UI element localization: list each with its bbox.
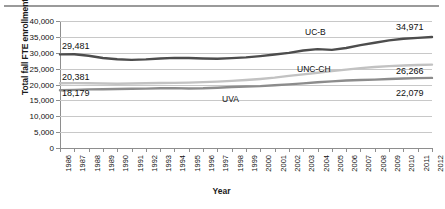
x-tick-mark: [289, 148, 290, 152]
y-axis-title: Total fall FTE enrollment: [20, 0, 30, 112]
x-tick-label: 1994: [178, 155, 187, 172]
x-tick-label: 2007: [364, 155, 373, 172]
x-tick-mark: [318, 148, 319, 152]
x-tick-mark: [375, 148, 376, 152]
x-tick-mark: [74, 148, 75, 152]
x-tick-mark: [60, 148, 61, 152]
series-label-unc: UNC-CH: [297, 64, 331, 74]
y-tick-label: 0: [50, 144, 54, 153]
x-tick-label: 1999: [250, 155, 259, 172]
x-tick-label: 1992: [150, 155, 159, 172]
x-tick-label: 1995: [193, 155, 202, 172]
x-tick-label: 2004: [322, 155, 331, 172]
x-tick-label: 1988: [93, 155, 102, 172]
x-tick-label: 2005: [336, 155, 345, 172]
series-line-unc-ch: [60, 65, 432, 84]
x-tick-mark: [346, 148, 347, 152]
x-tick-label: 1987: [78, 155, 87, 172]
y-tick-label: 30,000: [30, 48, 54, 57]
plot-area: 05,00010,00015,00020,00025,00030,00035,0…: [60, 21, 432, 148]
x-tick-mark: [403, 148, 404, 152]
x-tick-mark: [275, 148, 276, 152]
series-label-ucb: UC-B: [305, 27, 326, 37]
x-tick-mark: [117, 148, 118, 152]
x-axis-title: Year: [0, 186, 443, 196]
x-tick-mark: [360, 148, 361, 152]
y-tick-label: 35,000: [30, 32, 54, 41]
x-tick-mark: [303, 148, 304, 152]
y-tick-label: 20,000: [30, 80, 54, 89]
series-label-uva: UVA: [222, 94, 239, 104]
top-divider-rule: [4, 5, 439, 7]
x-tick-mark: [174, 148, 175, 152]
x-tick-mark: [432, 148, 433, 152]
y-tick-label: 5,000: [34, 128, 54, 137]
x-tick-mark: [189, 148, 190, 152]
x-tick-label: 1986: [64, 155, 73, 172]
x-tick-label: 2001: [279, 155, 288, 172]
x-tick-mark: [389, 148, 390, 152]
x-tick-label: 2011: [422, 155, 431, 171]
x-tick-label: 2000: [264, 155, 273, 172]
x-tick-label: 2006: [350, 155, 359, 172]
x-tick-mark: [203, 148, 204, 152]
y-tick-label: 40,000: [30, 17, 54, 26]
y-tick-label: 25,000: [30, 64, 54, 73]
y-tick-label: 10,000: [30, 112, 54, 121]
x-tick-mark: [217, 148, 218, 152]
annotation-start-uva: 18,179: [62, 88, 90, 98]
series-layer: [60, 21, 432, 148]
y-tick-label: 15,000: [30, 96, 54, 105]
x-tick-mark: [146, 148, 147, 152]
x-tick-label: 1996: [207, 155, 216, 172]
x-tick-label: 2002: [293, 155, 302, 172]
x-tick-mark: [246, 148, 247, 152]
x-tick-label: 2008: [379, 155, 388, 172]
x-tick-label: 1998: [236, 155, 245, 172]
annotation-end-uva: 22,079: [396, 88, 424, 98]
x-tick-label: 2009: [393, 155, 402, 172]
x-tick-mark: [332, 148, 333, 152]
x-tick-label: 1989: [107, 155, 116, 172]
x-tick-mark: [89, 148, 90, 152]
x-tick-label: 2010: [407, 155, 416, 172]
x-tick-mark: [132, 148, 133, 152]
annotation-start-unc: 20,381: [62, 72, 90, 82]
x-tick-label: 1993: [164, 155, 173, 172]
series-line-uc-b: [60, 37, 432, 60]
annotation-end-unc: 26,266: [396, 66, 424, 76]
x-tick-label: 1990: [121, 155, 130, 172]
x-tick-mark: [232, 148, 233, 152]
annotation-start-ucb: 29,481: [62, 41, 90, 51]
x-tick-label: 2003: [307, 155, 316, 172]
x-tick-label: 1997: [221, 155, 230, 172]
x-tick-mark: [160, 148, 161, 152]
x-tick-mark: [103, 148, 104, 152]
annotation-end-ucb: 34,971: [396, 22, 424, 32]
x-tick-mark: [418, 148, 419, 152]
x-tick-mark: [260, 148, 261, 152]
x-tick-label: 1991: [136, 155, 145, 172]
x-tick-label: 2012: [436, 155, 445, 172]
